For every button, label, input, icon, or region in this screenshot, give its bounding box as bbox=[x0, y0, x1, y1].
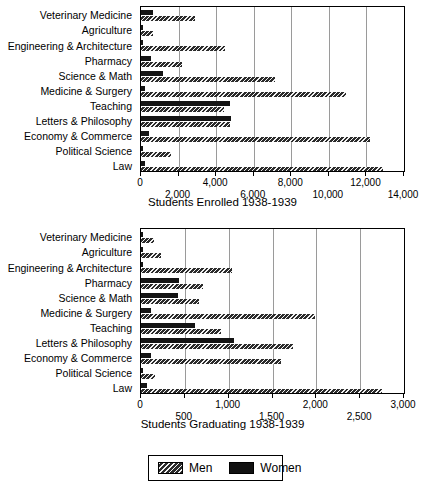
bar-men bbox=[141, 62, 182, 67]
x-tick-label: 3,000 bbox=[390, 399, 415, 410]
chart-students-enrolled: Veterinary MedicineAgricultureEngineerin… bbox=[0, 0, 423, 215]
bar-women bbox=[141, 247, 143, 252]
plot-area-graduating bbox=[140, 228, 405, 394]
bar-men bbox=[141, 31, 153, 36]
category-label: Political Science bbox=[56, 368, 132, 379]
bar-men bbox=[141, 268, 232, 273]
x-tick-mark bbox=[215, 172, 216, 176]
legend: Men Women bbox=[148, 455, 283, 481]
bar-group bbox=[141, 22, 404, 37]
category-label: Agriculture bbox=[82, 247, 132, 258]
bar-men bbox=[141, 46, 225, 51]
plot-area-enrolled bbox=[140, 6, 405, 172]
bar-group bbox=[141, 335, 404, 350]
category-label: Letters & Philosophy bbox=[36, 338, 132, 349]
bar-group bbox=[141, 98, 404, 113]
bar-men bbox=[141, 152, 171, 157]
bar-women bbox=[141, 278, 179, 283]
x-tick-label: 1,000 bbox=[215, 399, 240, 410]
bar-men bbox=[141, 253, 161, 258]
category-label: Law bbox=[113, 161, 132, 172]
bar-men bbox=[141, 299, 199, 304]
x-tick-label: 12,000 bbox=[350, 177, 381, 188]
bar-women bbox=[141, 71, 163, 76]
bar-group bbox=[141, 158, 404, 172]
x-tick-mark bbox=[403, 172, 404, 176]
bar-group bbox=[141, 289, 404, 304]
x-tick-mark bbox=[178, 172, 179, 176]
legend-label-women: Women bbox=[260, 462, 301, 475]
bar-men bbox=[141, 329, 221, 334]
bar-group bbox=[141, 82, 404, 97]
bar-group bbox=[141, 274, 404, 289]
bar-group bbox=[141, 259, 404, 274]
bar-men bbox=[141, 359, 281, 364]
bar-men bbox=[141, 122, 230, 127]
bar-men bbox=[141, 16, 195, 21]
category-label: Medicine & Surgery bbox=[40, 86, 132, 97]
bar-men bbox=[141, 92, 346, 97]
category-label: Science & Math bbox=[58, 293, 132, 304]
bar-group bbox=[141, 37, 404, 52]
category-label: Teaching bbox=[90, 101, 132, 112]
legend-entry-women: Women bbox=[229, 462, 301, 475]
bar-group bbox=[141, 304, 404, 319]
bar-group bbox=[141, 350, 404, 365]
bar-women bbox=[141, 10, 153, 15]
x-tick-label: 0 bbox=[137, 399, 143, 410]
bar-women bbox=[141, 353, 151, 358]
bar-women bbox=[141, 161, 145, 166]
category-label: Political Science bbox=[56, 146, 132, 157]
legend-label-men: Men bbox=[189, 462, 212, 475]
bar-women bbox=[141, 116, 231, 121]
bar-women bbox=[141, 262, 143, 267]
x-tick-label: 2,000 bbox=[303, 399, 328, 410]
bar-men bbox=[141, 107, 224, 112]
bar-group bbox=[141, 52, 404, 67]
category-label: Veterinary Medicine bbox=[40, 10, 132, 21]
bar-women bbox=[141, 323, 195, 328]
bar-men bbox=[141, 284, 203, 289]
x-tick-label: 8,000 bbox=[278, 177, 303, 188]
x-tick-mark bbox=[359, 394, 360, 398]
bar-men bbox=[141, 344, 293, 349]
x-tick-mark bbox=[290, 172, 291, 176]
bar-group bbox=[141, 7, 404, 22]
x-tick-mark bbox=[140, 394, 141, 398]
bar-women bbox=[141, 338, 234, 343]
x-tick-label: 4,000 bbox=[203, 177, 228, 188]
category-label: Letters & Philosophy bbox=[36, 116, 132, 127]
bar-women bbox=[141, 293, 178, 298]
x-axis-title-graduating: Students Graduating 1938-1939 bbox=[0, 418, 423, 431]
chart-students-graduating: Veterinary MedicineAgricultureEngineerin… bbox=[0, 222, 423, 437]
bar-group bbox=[141, 244, 404, 259]
bar-women bbox=[141, 383, 147, 388]
bar-men bbox=[141, 374, 155, 379]
x-tick-mark bbox=[272, 394, 273, 398]
bar-group bbox=[141, 67, 404, 82]
category-label: Economy & Commerce bbox=[24, 353, 132, 364]
category-label: Medicine & Surgery bbox=[40, 308, 132, 319]
x-tick-mark bbox=[365, 172, 366, 176]
bar-women bbox=[141, 308, 151, 313]
category-label: Pharmacy bbox=[85, 278, 132, 289]
category-label: Pharmacy bbox=[85, 56, 132, 67]
students-1938-1939-figure: Veterinary MedicineAgricultureEngineerin… bbox=[0, 0, 423, 493]
bar-women bbox=[141, 101, 230, 106]
x-axis-title-enrolled: Students Enrolled 1938-1939 bbox=[0, 196, 423, 209]
x-tick-mark bbox=[328, 172, 329, 176]
bar-women bbox=[141, 56, 151, 61]
x-tick-mark bbox=[228, 394, 229, 398]
legend-swatch-women-icon bbox=[229, 462, 254, 474]
category-label: Science & Math bbox=[58, 71, 132, 82]
bar-women bbox=[141, 368, 143, 373]
category-label: Engineering & Architecture bbox=[8, 263, 132, 274]
x-tick-label: 0 bbox=[137, 177, 143, 188]
category-label: Economy & Commerce bbox=[24, 131, 132, 142]
bar-group bbox=[141, 365, 404, 380]
bar-group bbox=[141, 320, 404, 335]
bar-group bbox=[141, 113, 404, 128]
category-label: Engineering & Architecture bbox=[8, 41, 132, 52]
bar-women bbox=[141, 86, 145, 91]
bar-group bbox=[141, 229, 404, 244]
